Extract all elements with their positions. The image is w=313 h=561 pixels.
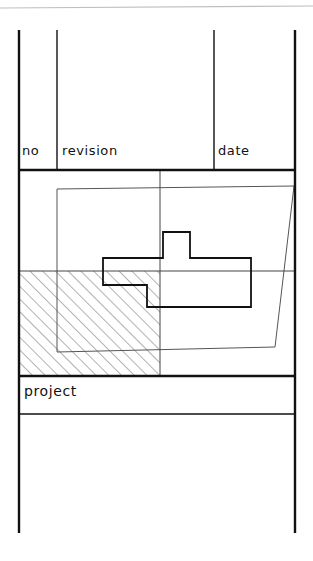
column-header-date: date [218, 144, 250, 157]
column-header-revision: revision [62, 144, 118, 157]
title-block-sheet: no revision date project [0, 0, 313, 561]
technical-drawing-canvas [0, 0, 313, 561]
top-rule [0, 6, 313, 8]
column-header-no: no [22, 144, 39, 157]
project-field-label: project [24, 384, 77, 398]
hatched-section [19, 271, 160, 376]
